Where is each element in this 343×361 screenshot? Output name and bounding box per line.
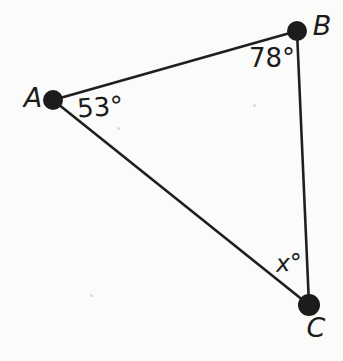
angle-b-label: 78° [249, 45, 295, 71]
scan-speckle [253, 104, 256, 107]
scan-speckle [117, 127, 120, 130]
vertex-c-label: C [307, 314, 326, 341]
triangle-diagram: A B C 53° 78° x° [0, 0, 343, 361]
vertex-b-dot [287, 21, 307, 41]
vertex-b-label: B [313, 12, 332, 39]
scan-speckle [90, 294, 93, 297]
angle-c-label: x° [275, 250, 302, 275]
vertex-a-label: A [24, 84, 42, 111]
angle-a-label: 53° [76, 92, 124, 121]
vertex-a-dot [43, 90, 63, 110]
edge-ac [53, 100, 309, 305]
